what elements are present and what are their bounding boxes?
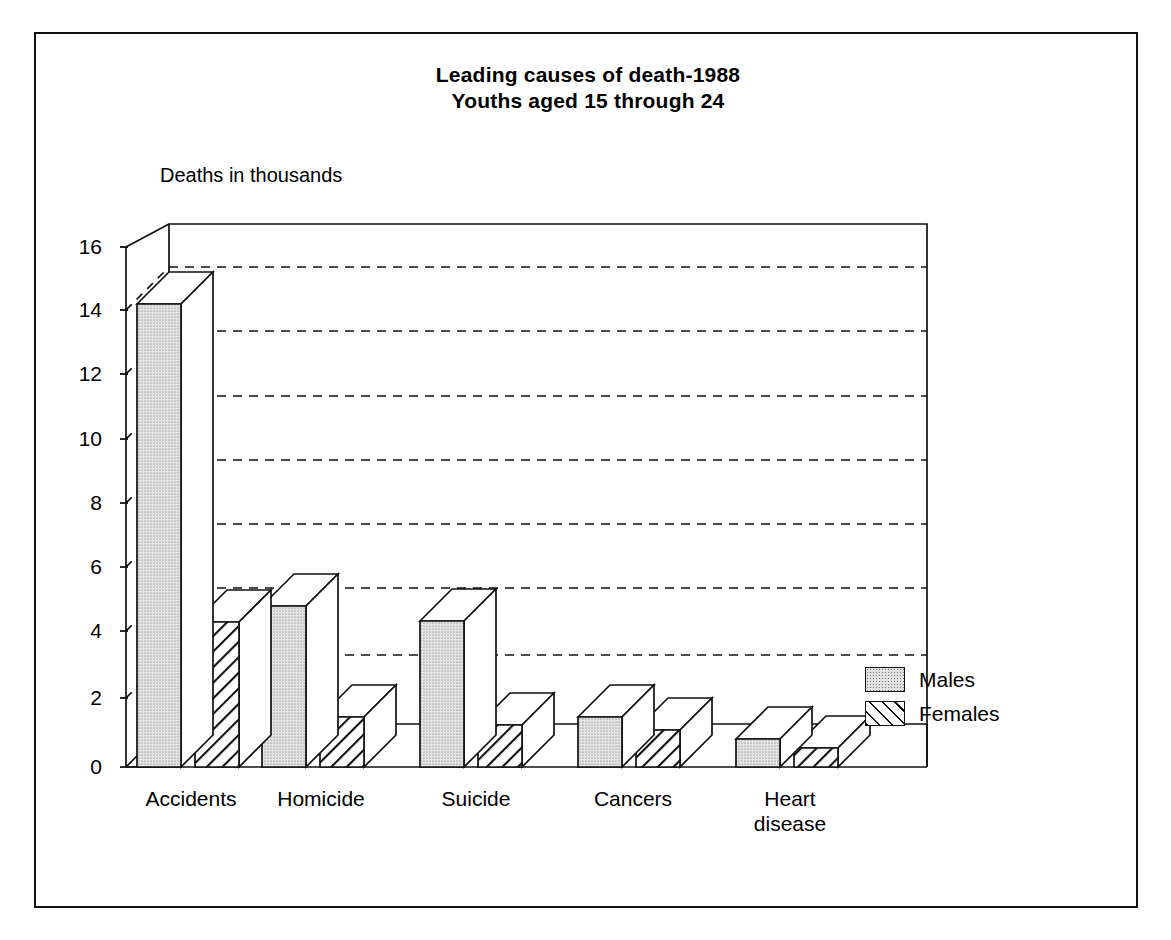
chart-frame: Leading causes of death-1988 Youths aged… [34, 32, 1138, 908]
y-tick-2: 2 [62, 686, 102, 710]
y-tick-16: 16 [62, 235, 102, 259]
x-label-heart-disease: Heart disease [700, 786, 880, 836]
bars-layer [137, 272, 870, 767]
legend-label-females: Females [919, 702, 1000, 726]
legend-swatch-males-icon [865, 667, 905, 692]
x-label-cancers: Cancers [543, 786, 723, 811]
y-tick-4: 4 [62, 619, 102, 643]
bar-accidents-males[interactable] [137, 272, 213, 767]
y-tick-6: 6 [62, 555, 102, 579]
x-label-suicide: Suicide [386, 786, 566, 811]
y-tick-0: 0 [62, 755, 102, 779]
bar-homicide-males[interactable] [262, 574, 338, 767]
y-tick-14: 14 [62, 298, 102, 322]
legend-swatch-females-icon [865, 701, 905, 726]
y-tick-12: 12 [62, 362, 102, 386]
legend-item-females[interactable]: Females [865, 701, 1000, 726]
legend-label-males: Males [919, 668, 975, 692]
chart-legend: Males Females [865, 667, 1000, 735]
y-tick-10: 10 [62, 427, 102, 451]
y-tick-8: 8 [62, 491, 102, 515]
chart-plot-area [36, 34, 1140, 910]
bar-suicide-males[interactable] [420, 589, 496, 767]
legend-item-males[interactable]: Males [865, 667, 1000, 692]
x-label-homicide: Homicide [231, 786, 411, 811]
